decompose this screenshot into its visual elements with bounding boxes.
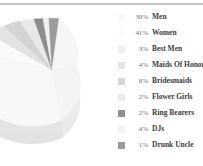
legend-swatch-icon xyxy=(118,110,125,117)
pie-svg xyxy=(0,8,114,158)
legend-label: Ring Bearers xyxy=(152,105,194,121)
legend-percent: .4% xyxy=(128,121,152,137)
legend-percent: 41% xyxy=(128,25,152,41)
legend-percent: 2% xyxy=(128,105,152,121)
legend-item-ring-bearers[interactable]: 2% Ring Bearers xyxy=(118,105,203,121)
legend-swatch-icon xyxy=(118,78,125,85)
legend-item-best-men[interactable]: 3% Best Men xyxy=(118,41,203,57)
chart-legend: 39% Men 41% Women 3% Best Men 4% Maids O… xyxy=(118,9,203,153)
legend-percent: 8% xyxy=(128,73,152,89)
legend-swatch-icon xyxy=(118,62,125,69)
legend-label: Men xyxy=(152,9,167,25)
legend-percent: 3% xyxy=(128,41,152,57)
legend-swatch-icon xyxy=(118,94,125,101)
legend-label: Women xyxy=(152,25,177,41)
legend-item-bridesmaids[interactable]: 8% Bridesmaids xyxy=(118,73,203,89)
legend-item-maids-of-honor[interactable]: 4% Maids Of Honor xyxy=(118,57,203,73)
legend-percent: 4% xyxy=(128,57,152,73)
legend-label: Best Men xyxy=(152,41,182,57)
pie-top-face xyxy=(0,18,80,126)
top-divider xyxy=(0,3,203,5)
legend-label: Maids Of Honor xyxy=(152,57,203,73)
legend-item-djs[interactable]: .4% DJs xyxy=(118,121,203,137)
legend-label: Drunk Uncle xyxy=(152,137,193,153)
legend-swatch-icon xyxy=(118,126,125,133)
legend-label: DJs xyxy=(152,121,164,137)
legend-swatch-icon xyxy=(118,142,125,149)
legend-item-women[interactable]: 41% Women xyxy=(118,25,203,41)
legend-item-drunk-uncle[interactable]: 1% Drunk Uncle xyxy=(118,137,203,153)
legend-item-men[interactable]: 39% Men xyxy=(118,9,203,25)
legend-percent: 39% xyxy=(128,9,152,25)
pie-chart-figure: 39% Men 41% Women 3% Best Men 4% Maids O… xyxy=(0,0,203,166)
legend-label: Flower Girls xyxy=(152,89,192,105)
legend-label: Bridesmaids xyxy=(152,73,192,89)
legend-swatch-icon xyxy=(118,46,125,53)
legend-percent: 2% xyxy=(128,89,152,105)
legend-item-flower-girls[interactable]: 2% Flower Girls xyxy=(118,89,203,105)
pie-chart-graphic xyxy=(0,8,114,158)
legend-swatch-icon xyxy=(118,14,125,21)
legend-swatch-icon xyxy=(118,30,125,37)
legend-percent: 1% xyxy=(128,137,152,153)
